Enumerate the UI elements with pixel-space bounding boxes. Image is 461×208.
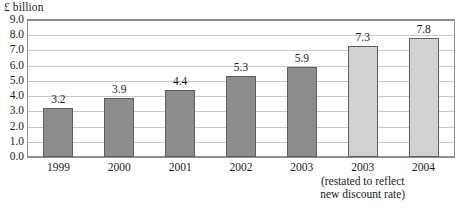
y-axis-tick-label: 5.0 xyxy=(0,75,24,87)
x-axis-category-label: 1999 xyxy=(28,161,89,173)
x-axis-category-label: 2001 xyxy=(150,161,211,173)
bar-value-label: 7.8 xyxy=(416,24,430,36)
bar-slot: 3.9 xyxy=(89,20,150,157)
bar-slot: 5.9 xyxy=(271,20,332,157)
bar-chart-figure: £ billion 9.08.07.06.05.04.03.02.01.00.0… xyxy=(0,0,461,208)
y-axis-tick-label: 4.0 xyxy=(0,90,24,102)
bar xyxy=(104,98,134,157)
restated-annotation: (restated to reflect new discount rate) xyxy=(288,175,438,200)
y-axis-tick-label: 1.0 xyxy=(0,136,24,148)
bar-value-label: 4.4 xyxy=(173,76,187,88)
bar xyxy=(165,90,195,157)
y-axis-tick-label: 6.0 xyxy=(0,60,24,72)
y-axis-tick-label: 2.0 xyxy=(0,121,24,133)
bar-value-label: 3.2 xyxy=(51,94,65,106)
y-axis-tick-label: 8.0 xyxy=(0,29,24,41)
bar xyxy=(409,38,439,157)
bar-slot: 4.4 xyxy=(150,20,211,157)
bar xyxy=(287,67,317,157)
bar-slot: 3.2 xyxy=(28,20,89,157)
bar xyxy=(348,46,378,157)
bar-value-label: 3.9 xyxy=(112,84,126,96)
y-axis-tick-label: 0.0 xyxy=(0,151,24,163)
x-axis-category-label: 2000 xyxy=(89,161,150,173)
x-axis-category-label: 2002 xyxy=(211,161,272,173)
y-axis-unit-title: £ billion xyxy=(4,1,44,13)
bar-slot: 7.3 xyxy=(332,20,393,157)
bar xyxy=(43,108,73,157)
y-axis-tick-label: 3.0 xyxy=(0,105,24,117)
clipped-scan-text xyxy=(176,201,356,208)
y-axis-tick-label: 7.0 xyxy=(0,44,24,56)
x-axis-category-label: 2003 xyxy=(271,161,332,173)
bar-value-label: 5.9 xyxy=(295,53,309,65)
annotation-line-2: new discount rate) xyxy=(288,188,438,201)
bar-slot: 5.3 xyxy=(211,20,272,157)
y-axis-tick-label: 9.0 xyxy=(0,14,24,26)
plot-area: 3.23.94.45.35.97.37.8 xyxy=(27,19,455,158)
x-axis-category-label: 2003 xyxy=(332,161,393,173)
bar xyxy=(226,76,256,157)
bar-value-label: 5.3 xyxy=(234,62,248,74)
annotation-line-1: (restated to reflect xyxy=(288,175,438,188)
bar-slot: 7.8 xyxy=(393,20,454,157)
bar-value-label: 7.3 xyxy=(356,32,370,44)
x-axis-category-label: 2004 xyxy=(393,161,454,173)
